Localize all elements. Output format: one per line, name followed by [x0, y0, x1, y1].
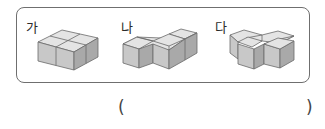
cube-figure-da	[228, 27, 304, 73]
figure-label-da: 다	[215, 21, 227, 34]
cube-figure-ga	[36, 28, 102, 72]
answer-close-paren: )	[306, 97, 313, 117]
answer-blank[interactable]	[124, 97, 304, 117]
cube-figure-na	[121, 28, 201, 72]
